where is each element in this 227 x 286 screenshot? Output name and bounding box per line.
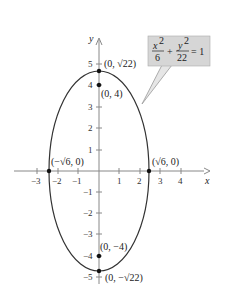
point-bottom-focus (97, 254, 101, 258)
label-top-focus: (0, 4) (101, 88, 123, 100)
ellipse-diagram: −3 −2 −1 1 2 3 4 x 5 4 3 2 1 −1 −2 −3 −4… (0, 0, 227, 286)
point-left-covertex (47, 169, 51, 173)
svg-text:2: 2 (184, 35, 189, 46)
y-tick-label: 3 (88, 102, 93, 112)
label-top-vertex: (0, √22) (104, 58, 136, 70)
x-tick-label: 1 (117, 176, 122, 186)
x-tick-label: 2 (137, 176, 142, 186)
y-tick-label: 1 (88, 145, 93, 155)
svg-text:y: y (177, 40, 183, 51)
y-tick-label: −4 (83, 251, 93, 261)
y-tick-label: 2 (88, 123, 93, 133)
svg-text:+: + (167, 46, 173, 57)
x-axis-label: x (204, 175, 210, 186)
y-tick-label: 4 (88, 80, 93, 90)
callout-pointer (142, 65, 172, 104)
svg-text:22: 22 (177, 52, 187, 63)
x-tick-label: −1 (72, 176, 82, 186)
label-bottom-vertex: (0, −√22) (105, 272, 143, 284)
svg-text:= 1: = 1 (191, 46, 204, 57)
y-tick-label: −2 (83, 208, 93, 218)
y-tick-label: −3 (83, 229, 93, 239)
label-left-covertex: (−√6, 0) (51, 156, 84, 168)
point-top-vertex (97, 69, 101, 73)
y-axis-label: y (88, 33, 94, 44)
point-bottom-vertex (97, 269, 101, 273)
label-bottom-focus: (0, −4) (100, 241, 127, 253)
label-right-covertex: (√6, 0) (152, 156, 179, 168)
svg-text:6: 6 (155, 52, 160, 63)
svg-text:x: x (152, 40, 158, 51)
y-tick-label: −5 (83, 272, 93, 282)
svg-text:2: 2 (159, 35, 164, 46)
x-tick-label: 3 (158, 176, 163, 186)
point-top-focus (97, 83, 101, 87)
y-tick-label: 5 (88, 59, 93, 69)
x-tick-label: −2 (52, 176, 62, 186)
x-tick-label: 4 (178, 176, 183, 186)
x-axis-arrow-icon (204, 168, 210, 174)
point-right-covertex (147, 169, 151, 173)
y-tick-label: −1 (83, 187, 93, 197)
x-tick-label: −3 (31, 176, 41, 186)
